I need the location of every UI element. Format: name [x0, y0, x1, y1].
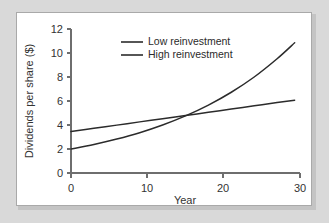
figure-root: 12 10 8 6 4 2 0 0 10 20 30 Ye — [0, 0, 329, 223]
y-tick-label-12: 12 — [51, 23, 63, 35]
legend-label-high-reinvestment: High reinvestment — [148, 48, 233, 60]
y-tick-label-0: 0 — [57, 167, 63, 179]
y-tick-label-4: 4 — [57, 119, 63, 131]
y-tick-label-8: 8 — [57, 71, 63, 83]
legend-label-low-reinvestment: Low reinvestment — [148, 35, 230, 47]
y-axis: 12 10 8 6 4 2 0 — [51, 23, 71, 179]
chart-card: 12 10 8 6 4 2 0 0 10 20 30 Ye — [16, 12, 312, 206]
x-tick-label-20: 20 — [217, 182, 229, 194]
x-axis-title: Year — [174, 194, 197, 205]
series-line-low-reinvestment — [71, 100, 295, 131]
y-axis-title: Dividends per share ($) — [23, 44, 35, 158]
x-axis: 0 10 20 30 — [68, 173, 306, 194]
x-tick-label-10: 10 — [141, 182, 153, 194]
x-tick-label-30: 30 — [294, 182, 306, 194]
x-tick-label-0: 0 — [68, 182, 74, 194]
y-tick-label-2: 2 — [57, 143, 63, 155]
y-tick-label-6: 6 — [57, 95, 63, 107]
y-tick-label-10: 10 — [51, 47, 63, 59]
legend: Low reinvestment High reinvestment — [121, 35, 233, 60]
line-chart: 12 10 8 6 4 2 0 0 10 20 30 Ye — [17, 13, 311, 205]
